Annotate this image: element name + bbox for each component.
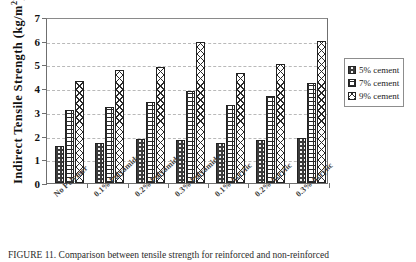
y-axis-tick-label: 0 (22, 179, 40, 190)
legend-swatch-9-percent-cement (348, 92, 356, 100)
bar-9-cement[interactable] (196, 42, 205, 183)
bar-group (87, 19, 127, 183)
bar-group (47, 19, 87, 183)
bar-7-cement[interactable] (186, 91, 195, 183)
x-axis-tick-mark (329, 183, 330, 188)
plot-area (46, 18, 328, 184)
legend-swatch-7-percent-cement (348, 79, 356, 87)
bar-group (289, 19, 329, 183)
y-axis-tick-label: 5 (22, 60, 40, 71)
x-axis-tick-mark (168, 183, 169, 188)
legend-label: 9% cement (359, 91, 399, 101)
legend-item[interactable]: 5% cement (348, 63, 399, 76)
legend-label: 5% cement (359, 65, 399, 75)
bar-5-cement[interactable] (256, 140, 265, 183)
bar-7-cement[interactable] (307, 83, 316, 183)
legend: 5% cement 7% cement 9% cement (344, 58, 404, 107)
y-axis-tick-label: 4 (22, 84, 40, 95)
y-axis-title-superscript: 2 (10, 1, 19, 5)
y-axis-title-tail: ) (11, 0, 25, 1)
bar-group (248, 19, 288, 183)
legend-item[interactable]: 9% cement (348, 89, 399, 102)
bar-5-cement[interactable] (297, 138, 306, 183)
x-axis-tick-mark (248, 183, 249, 188)
bar-7-cement[interactable] (226, 105, 235, 183)
legend-label: 7% cement (359, 78, 399, 88)
bar-5-cement[interactable] (95, 143, 104, 183)
y-axis-tick-label: 7 (22, 13, 40, 24)
x-axis-tick-mark (208, 183, 209, 188)
bar-7-cement[interactable] (266, 96, 275, 183)
legend-swatch-5-percent-cement (348, 66, 356, 74)
bar-9-cement[interactable] (317, 41, 326, 183)
y-axis-tick-mark (42, 184, 47, 185)
x-axis-tick-mark (289, 183, 290, 188)
y-axis-tick-label: 3 (22, 108, 40, 119)
legend-item[interactable]: 7% cement (348, 76, 399, 89)
x-axis-tick-mark (87, 183, 88, 188)
chart-figure: Indirect Tensile Strength (kg/m2) 012345… (0, 0, 416, 262)
y-axis-tick-label: 1 (22, 155, 40, 166)
x-axis-tick-mark (128, 183, 129, 188)
y-axis-tick-label: 6 (22, 37, 40, 48)
figure-caption: FIGURE 11. Comparison between tensile st… (8, 250, 412, 260)
bar-5-cement[interactable] (55, 146, 64, 183)
bar-series-layer (47, 19, 327, 183)
y-axis-tick-label: 2 (22, 132, 40, 143)
bar-7-cement[interactable] (146, 102, 155, 183)
